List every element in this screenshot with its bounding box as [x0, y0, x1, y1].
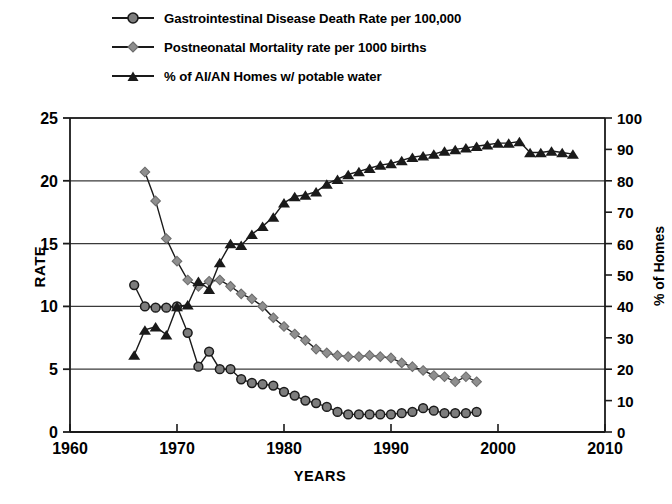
data-point-circle — [162, 303, 171, 312]
y-tick-label-right: 40 — [617, 298, 634, 315]
y-tick-label-right: 10 — [617, 393, 634, 410]
data-point-triangle — [278, 198, 290, 208]
data-point-triangle — [332, 174, 344, 184]
data-point-triangle — [139, 325, 151, 335]
data-point-circle — [397, 409, 406, 418]
data-point-circle — [365, 410, 374, 419]
data-point-circle — [312, 399, 321, 408]
y-tick-label-right: 60 — [617, 236, 634, 253]
data-point-circle — [269, 381, 278, 390]
data-point-diamond — [333, 351, 343, 361]
data-point-circle — [301, 396, 310, 405]
data-point-diamond — [365, 351, 375, 361]
data-point-circle — [376, 410, 385, 419]
data-point-circle — [194, 362, 203, 371]
data-point-circle — [419, 404, 428, 413]
data-point-circle — [258, 380, 267, 389]
data-point-circle — [451, 409, 460, 418]
data-point-triangle — [192, 277, 204, 287]
data-point-circle — [151, 303, 160, 312]
data-point-circle — [237, 375, 246, 384]
data-point-diamond — [397, 358, 407, 368]
y-tick-label-left: 25 — [40, 110, 58, 127]
data-point-circle — [387, 410, 396, 419]
y-tick-label-right: 70 — [617, 204, 634, 221]
data-point-diamond — [215, 275, 225, 285]
data-point-circle — [440, 409, 449, 418]
data-point-diamond — [440, 372, 450, 382]
data-point-circle — [183, 328, 192, 337]
data-point-diamond — [429, 371, 439, 381]
x-tick-label: 2000 — [480, 440, 516, 457]
y-tick-label-right: 0 — [617, 424, 625, 441]
data-point-diamond — [408, 362, 418, 372]
x-tick-label: 1970 — [159, 440, 195, 457]
x-axis-title: YEARS — [0, 468, 640, 484]
y-tick-label-left: 20 — [40, 173, 58, 190]
data-point-diamond — [354, 352, 364, 362]
data-point-circle — [408, 408, 417, 417]
x-tick-label: 1960 — [52, 440, 88, 457]
data-point-triangle — [128, 350, 140, 360]
data-point-diamond — [472, 377, 482, 387]
series-line-1 — [145, 172, 477, 382]
y-tick-label-right: 20 — [617, 361, 634, 378]
data-point-circle — [472, 408, 481, 417]
data-point-circle — [226, 365, 235, 374]
data-point-circle — [280, 387, 289, 396]
data-point-diamond — [376, 352, 386, 362]
y-tick-label-right: 80 — [617, 173, 634, 190]
data-point-circle — [205, 347, 214, 356]
data-point-diamond — [322, 348, 332, 358]
y-tick-label-left: 0 — [49, 424, 58, 441]
chart-canvas: 0510152025010203040506070809010019601970… — [0, 0, 672, 504]
data-point-diamond — [343, 352, 353, 362]
x-tick-label: 1990 — [373, 440, 409, 457]
data-point-triangle — [342, 170, 354, 180]
data-point-circle — [130, 281, 139, 290]
data-point-triangle — [150, 322, 162, 332]
x-tick-label: 1980 — [266, 440, 302, 457]
data-point-circle — [462, 409, 471, 418]
y-axis-title-right: % of Homes — [651, 211, 667, 321]
y-axis-title-left: RATE — [31, 222, 48, 312]
data-point-circle — [290, 391, 299, 400]
data-point-circle — [333, 408, 342, 417]
data-point-circle — [344, 410, 353, 419]
data-point-triangle — [214, 258, 226, 268]
data-point-diamond — [140, 167, 150, 177]
data-point-diamond — [162, 234, 172, 244]
data-point-diamond — [450, 377, 460, 387]
data-point-diamond — [172, 256, 182, 266]
y-tick-label-right: 30 — [617, 330, 634, 347]
data-point-diamond — [247, 294, 257, 304]
y-tick-label-left: 5 — [49, 361, 58, 378]
data-point-diamond — [151, 196, 161, 206]
data-point-circle — [215, 365, 224, 374]
y-tick-label-right: 100 — [617, 110, 642, 127]
data-point-diamond — [290, 329, 300, 339]
x-tick-label: 2010 — [587, 440, 623, 457]
data-point-diamond — [226, 282, 236, 292]
data-point-circle — [141, 302, 150, 311]
data-point-triangle — [364, 163, 376, 173]
data-point-triangle — [396, 156, 408, 166]
data-point-triangle — [353, 167, 365, 177]
data-point-circle — [248, 379, 257, 388]
data-point-diamond — [386, 353, 396, 363]
data-point-diamond — [418, 366, 428, 376]
data-point-diamond — [236, 289, 246, 299]
data-point-circle — [355, 410, 364, 419]
data-point-diamond — [183, 275, 193, 285]
data-point-triangle — [267, 212, 279, 222]
data-point-circle — [322, 402, 331, 411]
y-tick-label-right: 50 — [617, 267, 634, 284]
data-point-circle — [429, 406, 438, 415]
series-line-2 — [134, 142, 573, 356]
y-tick-label-right: 90 — [617, 141, 634, 158]
data-point-diamond — [461, 372, 471, 382]
chart-area: 0510152025010203040506070809010019601970… — [0, 0, 672, 504]
